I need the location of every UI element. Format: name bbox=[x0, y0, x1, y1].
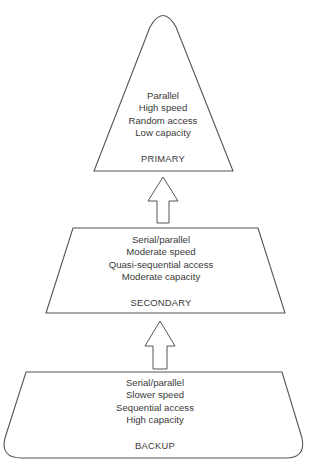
backup-line: High capacity bbox=[116, 414, 194, 426]
backup-line: Slower speed bbox=[116, 389, 194, 401]
secondary-line: Moderate capacity bbox=[109, 271, 214, 283]
primary-line: Parallel bbox=[129, 90, 198, 102]
primary-label: PRIMARY bbox=[141, 153, 185, 164]
backup-label: BACKUP bbox=[135, 440, 175, 451]
secondary-line: Quasi-sequential access bbox=[109, 259, 214, 271]
backup-characteristics: Serial/parallel Slower speed Sequential … bbox=[116, 377, 194, 427]
secondary-line: Moderate speed bbox=[109, 246, 214, 258]
primary-line: Random access bbox=[129, 115, 198, 127]
primary-line: High speed bbox=[129, 102, 198, 114]
primary-characteristics: Parallel High speed Random access Low ca… bbox=[129, 90, 198, 140]
backup-line: Sequential access bbox=[116, 402, 194, 414]
primary-line: Low capacity bbox=[129, 127, 198, 139]
secondary-characteristics: Serial/parallel Moderate speed Quasi-seq… bbox=[109, 234, 214, 284]
backup-line: Serial/parallel bbox=[116, 377, 194, 389]
secondary-label: SECONDARY bbox=[130, 297, 191, 308]
up-arrow-icon bbox=[148, 177, 178, 223]
secondary-line: Serial/parallel bbox=[109, 234, 214, 246]
up-arrow-icon bbox=[145, 321, 175, 369]
